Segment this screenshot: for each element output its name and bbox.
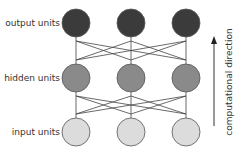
hidden-unit (62, 64, 90, 92)
hidden-units-label: hidden units (4, 73, 60, 83)
output-unit (117, 9, 145, 37)
units (62, 9, 200, 146)
output-unit (62, 9, 90, 37)
input-unit (117, 118, 145, 146)
input-units-label: input units (12, 127, 60, 137)
direction-label: computational direction (224, 28, 234, 135)
output-units-label: output units (5, 18, 60, 28)
input-unit (62, 118, 90, 146)
hidden-unit (117, 64, 145, 92)
layer-labels: output unitshidden unitsinput units (4, 18, 60, 137)
output-unit (172, 9, 200, 37)
arrow-up-icon (211, 36, 217, 44)
direction-indicator: computational direction (211, 28, 234, 135)
input-unit (172, 118, 200, 146)
hidden-unit (172, 64, 200, 92)
feedforward-network-diagram: output unitshidden unitsinput units comp… (0, 0, 242, 158)
